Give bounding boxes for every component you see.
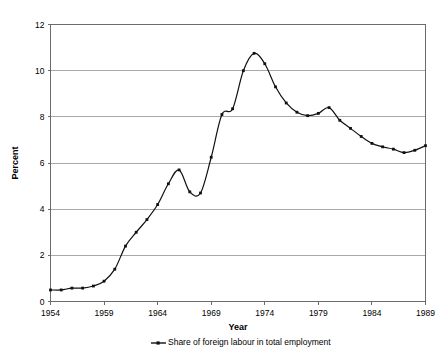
- x-tick-label-1974: 1974: [255, 308, 274, 318]
- x-axis-tick-labels-group: 19541959196419691974197919841989: [41, 308, 435, 318]
- x-axis-title: Year: [228, 322, 248, 332]
- data-point-1981: [338, 119, 341, 122]
- data-point-1973: [253, 52, 256, 55]
- y-axis-tick-labels-group: 024681012: [35, 20, 45, 307]
- data-point-1975: [274, 85, 277, 88]
- y-tick-label-8: 8: [40, 112, 45, 122]
- data-point-1962: [135, 231, 138, 234]
- data-point-1969: [210, 156, 213, 159]
- data-point-1967: [188, 190, 191, 193]
- data-point-1961: [124, 245, 127, 248]
- x-tick-label-1959: 1959: [95, 308, 114, 318]
- data-point-1972: [242, 69, 245, 72]
- data-point-1980: [328, 106, 331, 109]
- data-point-1960: [113, 268, 116, 271]
- data-point-1989: [424, 144, 427, 147]
- series-line-0: [51, 53, 426, 290]
- data-point-1956: [71, 287, 74, 290]
- data-point-1983: [360, 135, 363, 138]
- y-tick-label-10: 10: [35, 66, 45, 76]
- y-tick-label-4: 4: [40, 204, 45, 214]
- legend-label-share-of-foreign-labour: Share of foreign labour in total employm…: [168, 337, 331, 347]
- y-tick-label-0: 0: [40, 297, 45, 307]
- data-point-1965: [167, 182, 170, 185]
- data-point-1959: [103, 280, 106, 283]
- gridlines-group: [51, 71, 426, 256]
- data-point-1974: [263, 62, 266, 65]
- series-group: [51, 53, 426, 290]
- data-point-1970: [221, 113, 224, 116]
- data-point-1984: [371, 142, 374, 145]
- x-tick-label-1954: 1954: [41, 308, 60, 318]
- chart-container: 024681012 195419591964196919741979198419…: [0, 0, 444, 354]
- data-point-1977: [296, 111, 299, 114]
- data-point-1985: [381, 145, 384, 148]
- data-point-1978: [306, 114, 309, 117]
- chart-legend: Share of foreign labour in total employm…: [151, 337, 331, 347]
- y-tick-label-12: 12: [35, 20, 45, 30]
- data-point-1955: [60, 289, 63, 292]
- x-tick-label-1964: 1964: [148, 308, 167, 318]
- data-point-1976: [285, 102, 288, 105]
- data-point-1958: [92, 285, 95, 288]
- data-point-1964: [156, 203, 159, 206]
- data-point-1966: [178, 169, 181, 172]
- x-tick-label-1979: 1979: [309, 308, 328, 318]
- legend-square-marker-icon: [157, 341, 160, 344]
- data-point-1988: [413, 149, 416, 152]
- data-point-1968: [199, 192, 202, 195]
- data-point-1957: [81, 287, 84, 290]
- data-point-1982: [349, 127, 352, 130]
- data-point-1987: [403, 151, 406, 154]
- data-point-1954: [49, 289, 52, 292]
- y-axis-title: Percent: [10, 146, 20, 179]
- line-chart: 024681012 195419591964196919741979198419…: [0, 0, 444, 354]
- y-tick-label-6: 6: [40, 158, 45, 168]
- data-point-1979: [317, 112, 320, 115]
- data-point-1971: [231, 107, 234, 110]
- x-tick-label-1989: 1989: [416, 308, 435, 318]
- x-tick-label-1969: 1969: [202, 308, 221, 318]
- data-point-1963: [146, 218, 149, 221]
- x-tick-label-1984: 1984: [362, 308, 381, 318]
- data-point-1986: [392, 148, 395, 151]
- y-tick-label-2: 2: [40, 250, 45, 260]
